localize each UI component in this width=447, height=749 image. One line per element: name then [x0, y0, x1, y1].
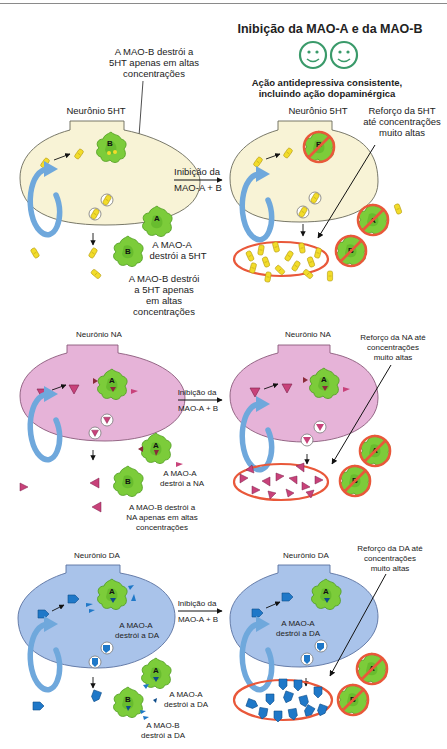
svg-text:B: B: [107, 139, 113, 148]
mao-a-inside-line1: A MAO-A: [119, 621, 153, 630]
header: Inibição da MAO-A e da MAO-B Ação antide…: [238, 22, 423, 99]
inhibited-mao-a-enzyme: A: [357, 653, 387, 684]
boost-label-line3: muito altas: [371, 564, 410, 573]
mao-b-out-line1: A MAO-B destrói: [129, 273, 200, 284]
mao-b-label-line2: NA apenas em altas: [126, 513, 198, 522]
neuron-label: Neurônio NA: [285, 330, 331, 339]
mao-a-label-line2: destrói a DA: [164, 700, 209, 709]
smiley-face-icon: [300, 42, 326, 68]
neuron-label: Neurônio DA: [283, 551, 329, 560]
svg-text:MAO-A + B: MAO-A + B: [178, 404, 218, 413]
mao-b-out-line4: concentrações: [133, 306, 195, 317]
svg-text:A: A: [153, 441, 159, 450]
dopamine-left-panel: Neurônio DA A A MAO-A destrói a DA A A: [18, 551, 209, 740]
mao-a-enzyme: A: [142, 433, 172, 464]
mao-b-label-line2: destrói a DA: [141, 731, 186, 740]
inhibited-mao-b-enzyme: B: [336, 235, 366, 266]
neuron-label: Neurônio NA: [76, 330, 122, 339]
mao-b-out-line3: em altas: [146, 295, 182, 306]
header-subtitle-line1: Ação antidepressiva consistente,: [252, 77, 402, 88]
boost-label-line1: Reforço da 5HT: [368, 105, 435, 116]
inhibited-mao-b-enzyme: B: [340, 465, 370, 496]
mao-a-label-line1: A MAO-A: [169, 690, 203, 699]
mao-a-label-line2: destrói a NA: [160, 479, 205, 488]
svg-text:A: A: [154, 214, 160, 223]
mao-a-inside-line1: A MAO-A: [281, 619, 315, 628]
boost-label-line2: concentrações: [367, 343, 419, 352]
neuron-label: Neurônio 5HT: [66, 105, 125, 116]
mao-b-label-line1: A MAO-B: [146, 721, 179, 730]
inhibited-mao-a-enzyme: A: [360, 435, 390, 466]
na-neuron: [230, 345, 378, 442]
svg-text:B: B: [125, 477, 131, 486]
svg-text:A: A: [153, 666, 159, 675]
mao-a-label-line1: A MAO-A: [163, 469, 197, 478]
mao-b-note-line3: concentrações: [123, 68, 185, 79]
mao-b-enzyme: B: [114, 466, 144, 497]
serotonin-right-panel: Neurônio 5HT Reforço da 5HT até concentr…: [230, 105, 441, 282]
svg-text:B: B: [125, 695, 131, 704]
mao-b-label-line1: A MAO-B destrói a: [129, 503, 196, 512]
boost-label-line2: até concentrações: [363, 116, 441, 127]
mao-b-label-line3: concentrações: [136, 523, 188, 532]
noradrenaline-right-panel: Neurônio NA Reforço da NA até concentraç…: [230, 330, 426, 500]
smiley-face-icon: [331, 42, 357, 68]
inhibition-arrow: Inibição da MAO-A + B: [174, 166, 222, 193]
boost-label-line3: muito altas: [379, 127, 425, 138]
neuron-label: Neurônio DA: [74, 551, 120, 560]
inhibition-arrow: Inibição da MAO-A + B: [178, 388, 222, 413]
mao-b-out-line2: a 5HT apenas: [134, 284, 194, 295]
mao-b-enzyme: B: [114, 236, 144, 267]
svg-text:Inibição da: Inibição da: [174, 166, 221, 177]
dopamine-right-panel: Neurônio DA Reforço da DA até concentraç…: [230, 544, 423, 722]
mao-inhibition-diagram: Inibição da MAO-A e da MAO-B Ação antide…: [0, 0, 447, 749]
boost-label-line1: Reforço da DA até: [357, 544, 423, 553]
mao-a-label-line1: A MAO-A: [152, 239, 192, 250]
svg-text:Inibição da: Inibição da: [178, 599, 217, 608]
mao-a-inside-line2: destrói a DA: [276, 629, 321, 638]
mao-b-note-line1: A MAO-B destrói a: [115, 46, 194, 57]
inhibited-mao-b-enzyme: B: [304, 131, 334, 162]
inhibition-arrow: Inibição da MAO-A + B: [178, 599, 222, 624]
svg-text:MAO-A + B: MAO-A + B: [174, 182, 222, 193]
mao-a-inside-line2: destrói a DA: [115, 631, 160, 640]
header-subtitle-line2: incluindo ação dopaminérgica: [259, 88, 396, 99]
mao-b-enzyme: B: [114, 687, 144, 718]
mao-a-enzyme: A: [142, 658, 172, 689]
mao-b-note-line2: 5HT apenas em altas: [109, 57, 199, 68]
boost-label-line3: muito altas: [374, 353, 413, 362]
svg-text:A: A: [109, 376, 115, 385]
svg-text:Inibição da: Inibição da: [178, 388, 217, 397]
boost-label-line1: Reforço da NA até: [360, 333, 426, 342]
svg-text:A: A: [323, 587, 329, 596]
mao-a-label-line2: destrói a 5HT: [149, 250, 206, 261]
inhibited-mao-b-enzyme: B: [338, 684, 368, 715]
inhibited-mao-a-enzyme: A: [358, 204, 388, 235]
noradrenaline-left-panel: Neurônio NA A A A MAO-A destrói a NA: [20, 330, 205, 532]
neuron-label: Neurônio 5HT: [288, 105, 347, 116]
svg-text:A: A: [109, 587, 115, 596]
boost-label-line2: concentrações: [364, 554, 416, 563]
svg-text:B: B: [125, 247, 131, 256]
svg-text:A: A: [321, 375, 327, 384]
header-title: Inibição da MAO-A e da MAO-B: [238, 22, 423, 36]
svg-text:MAO-A + B: MAO-A + B: [178, 615, 218, 624]
